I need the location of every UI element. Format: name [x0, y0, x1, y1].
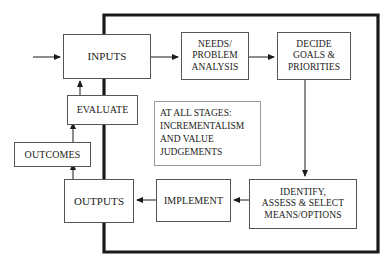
node-evaluate-label: EVALUATE — [75, 104, 131, 116]
node-inputs-label: INPUTS — [85, 50, 128, 63]
node-decide-goals-priorities-label: DECIDE GOALS & PRIORITIES — [286, 39, 342, 73]
node-outcomes[interactable]: OUTCOMES — [14, 142, 91, 167]
node-evaluate[interactable]: EVALUATE — [67, 95, 138, 125]
annotation-all-stages: AT ALL STAGES: INCREMENTALISM AND VALUE … — [154, 101, 261, 166]
node-decide-goals-priorities[interactable]: DECIDE GOALS & PRIORITIES — [277, 32, 351, 80]
node-outputs-label: OUTPUTS — [72, 195, 126, 208]
node-identify-assess-select-label: IDENTIFY, ASSESS & SELECT MEANS/OPTIONS — [260, 187, 346, 221]
node-needs-problem-analysis[interactable]: NEEDS/ PROBLEM ANALYSIS — [181, 32, 249, 80]
node-implement[interactable]: IMPLEMENT — [156, 179, 231, 222]
node-identify-assess-select[interactable]: IDENTIFY, ASSESS & SELECT MEANS/OPTIONS — [249, 179, 357, 229]
flow-diagram: INPUTS NEEDS/ PROBLEM ANALYSIS DECIDE GO… — [0, 0, 391, 269]
node-needs-problem-analysis-label: NEEDS/ PROBLEM ANALYSIS — [190, 39, 241, 73]
node-inputs[interactable]: INPUTS — [63, 34, 151, 79]
node-outputs[interactable]: OUTPUTS — [64, 179, 134, 223]
node-implement-label: IMPLEMENT — [162, 195, 225, 207]
node-outcomes-label: OUTCOMES — [23, 149, 83, 161]
